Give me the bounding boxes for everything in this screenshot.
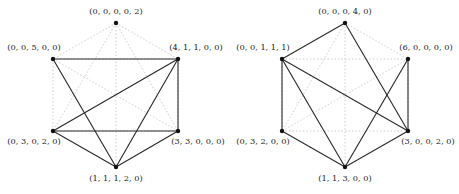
node-ul — [51, 57, 55, 61]
node-bottom — [343, 165, 347, 169]
graph-diagram: (0, 0, 0, 0, 2)(0, 0, 5, 0, 0)(4, 1, 1, … — [0, 0, 459, 194]
node-ur — [176, 57, 180, 61]
node-label-lr: (3, 0, 0, 2, 0) — [401, 136, 454, 146]
node-label-ul: (0, 0, 1, 1, 1) — [236, 42, 289, 52]
edge-lr-bottom — [345, 131, 408, 167]
node-ur — [406, 57, 410, 61]
edge-ul-bottom — [282, 59, 345, 167]
node-label-bottom: (1, 1, 3, 0, 0) — [318, 173, 371, 183]
edge-top-ul — [282, 23, 345, 59]
node-ll — [51, 129, 55, 133]
edge-ll-bottom — [53, 131, 116, 167]
node-label-ur: (4, 1, 1, 0, 0) — [169, 42, 222, 52]
dotted-edge — [116, 23, 178, 59]
edge-ur-bottom — [116, 59, 178, 167]
node-lr — [176, 129, 180, 133]
labels-right: (0, 0, 0, 4, 0)(0, 0, 1, 1, 1)(6, 0, 0, … — [236, 6, 454, 183]
node-label-ur: (6, 0, 0, 0, 0) — [399, 42, 452, 52]
node-top — [343, 21, 347, 25]
node-label-ul: (0, 0, 5, 0, 0) — [7, 42, 60, 52]
node-label-top: (0, 0, 0, 0, 2) — [89, 6, 142, 16]
node-lr — [406, 129, 410, 133]
edge-lr-bottom — [116, 131, 178, 167]
graph-left: (0, 0, 0, 0, 2)(0, 0, 5, 0, 0)(4, 1, 1, … — [7, 6, 224, 183]
dotted-edge — [53, 23, 116, 59]
node-ul — [280, 57, 284, 61]
node-label-top: (0, 0, 0, 4, 0) — [318, 6, 371, 16]
solid-edges-left — [53, 59, 178, 167]
edge-ur-bottom — [345, 59, 408, 167]
dotted-edge — [345, 23, 408, 59]
node-top — [114, 21, 118, 25]
node-label-ll: (0, 3, 2, 0, 0) — [236, 136, 289, 146]
node-label-ll: (0, 3, 0, 2, 0) — [7, 136, 60, 146]
node-label-bottom: (1, 1, 1, 2, 0) — [89, 173, 142, 183]
node-ll — [280, 129, 284, 133]
graph-right: (0, 0, 0, 4, 0)(0, 0, 1, 1, 1)(6, 0, 0, … — [236, 6, 454, 183]
node-label-lr: (3, 3, 0, 0, 0) — [171, 136, 224, 146]
node-bottom — [114, 165, 118, 169]
edge-top-lr — [345, 23, 408, 131]
edge-ll-bottom — [282, 131, 345, 167]
